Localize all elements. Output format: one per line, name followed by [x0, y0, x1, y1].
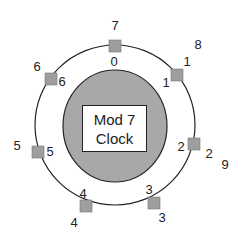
- label-outer-5: 5: [13, 139, 20, 152]
- marker-6: [45, 73, 57, 85]
- label-inner-5: 5: [46, 145, 53, 158]
- label-outer-4: 4: [79, 187, 86, 200]
- label-inner-4: 4: [70, 216, 77, 229]
- label-inner-6: 6: [58, 75, 65, 88]
- label-outer-1: 1: [183, 55, 190, 68]
- marker-1: [171, 69, 183, 81]
- label-inner-0: 0: [110, 55, 117, 68]
- label-extra-2: 9: [221, 158, 228, 171]
- label-extra-1: 8: [194, 38, 201, 51]
- marker-0: [109, 40, 121, 52]
- marker-2: [188, 138, 200, 150]
- title-line-1: Mod 7: [94, 110, 136, 129]
- title-line-2: Clock: [96, 129, 134, 148]
- mod-7-clock-label: Mod 7 Clock: [82, 105, 147, 152]
- label-outer-6: 6: [33, 60, 40, 73]
- label-inner-3: 3: [158, 211, 165, 224]
- label-outer-0: 7: [111, 19, 118, 32]
- marker-4: [80, 200, 92, 212]
- label-inner-2: 2: [177, 140, 184, 153]
- marker-5: [32, 146, 44, 158]
- label-inner-1: 1: [162, 76, 169, 89]
- label-outer-2: 2: [205, 147, 212, 160]
- label-outer-3: 3: [145, 183, 152, 196]
- marker-3: [148, 197, 160, 209]
